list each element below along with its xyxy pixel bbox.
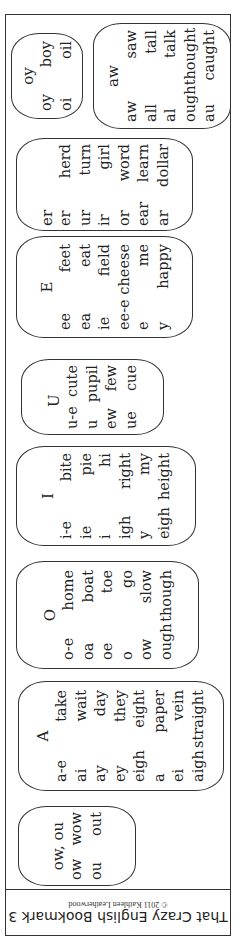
list-item: oaboat xyxy=(78,570,98,660)
list-item: ighright xyxy=(115,453,135,539)
list-item: ouout xyxy=(86,812,106,880)
list-item: eefeet xyxy=(55,244,75,330)
list-item: ogo xyxy=(117,570,137,660)
card-header: aw xyxy=(104,30,122,122)
list-item: a-etake xyxy=(52,690,72,782)
list-item: ihi xyxy=(96,453,116,539)
list-item: yhappy xyxy=(153,244,173,330)
list-item: eme xyxy=(133,244,153,330)
card-header: oy xyxy=(19,41,37,111)
card-header: E xyxy=(37,244,55,330)
list-item: urturn xyxy=(75,144,95,226)
list-item: ewfew xyxy=(102,365,122,429)
list-item: eighheight xyxy=(154,453,174,539)
list-item: apaper xyxy=(150,690,170,782)
list-item: aucaught xyxy=(200,30,220,122)
bookmark-footer: That Crazy English Bookmark 3 © 2011 Kat… xyxy=(6,889,230,935)
card-header: er xyxy=(37,144,55,226)
list-item: earlearn xyxy=(133,144,153,226)
card-A: A a-etake aiwait ayday eythey eigheight … xyxy=(18,681,224,791)
card-header: U xyxy=(45,365,63,429)
card-E: E eefeet eaeat iefield ee-echeese eme yh… xyxy=(16,236,193,338)
card-er: er erherd urturn irgirl orword earlearn … xyxy=(16,138,193,231)
list-item: aiwait xyxy=(72,690,92,782)
list-item: ymy xyxy=(135,453,155,539)
list-item: owwow xyxy=(67,812,87,880)
list-item: altalk xyxy=(161,30,181,122)
list-item: iefield xyxy=(94,244,114,330)
list-item: awsaw xyxy=(122,30,142,122)
card-O: O o-ehome oaboat oetoe ogo owslow oughth… xyxy=(16,561,199,669)
list-item: ardollar xyxy=(153,144,173,226)
list-item: oughthough xyxy=(156,570,176,660)
list-item: uecue xyxy=(121,365,141,429)
card-ow-ou: ow, ou owwow ouout xyxy=(18,806,136,886)
list-item: iepie xyxy=(76,453,96,539)
list-item: eythey xyxy=(111,690,131,782)
list-item: oioil xyxy=(56,41,76,111)
list-item: eaeat xyxy=(75,244,95,330)
list-item: aighstraight xyxy=(189,690,209,782)
list-item: upupil xyxy=(82,365,102,429)
card-header: A xyxy=(34,690,52,782)
copyright-text: © 2011 Kathleen Leatherwood xyxy=(69,900,168,910)
card-header: O xyxy=(40,570,58,660)
list-item: oyboy xyxy=(37,41,57,111)
list-item: o-ehome xyxy=(58,570,78,660)
list-item: i-ebite xyxy=(57,453,77,539)
card-U: U u-ecute upupil ewfew uecue xyxy=(21,359,164,435)
card-I: I i-ebite iepie ihi ighright ymy eighhei… xyxy=(16,446,196,546)
list-item: oetoe xyxy=(97,570,117,660)
list-item: ee-echeese xyxy=(114,244,134,330)
list-item: oughthought xyxy=(181,30,201,122)
bookmark-title: That Crazy English Bookmark 3 xyxy=(8,910,227,926)
list-item: ayday xyxy=(91,690,111,782)
list-item: u-ecute xyxy=(63,365,83,429)
card-oy: oy oyboy oioil xyxy=(11,33,83,119)
list-item: irgirl xyxy=(94,144,114,226)
list-item: erherd xyxy=(55,144,75,226)
list-item: owslow xyxy=(136,570,156,660)
card-aw: aw awsaw alltall altalk oughthought auca… xyxy=(93,23,231,129)
bookmark-sheet: oy oyboy oioil aw awsaw alltall altalk o… xyxy=(5,14,231,936)
card-header: ow, ou xyxy=(49,812,67,880)
list-item: alltall xyxy=(142,30,162,122)
card-header: I xyxy=(39,453,57,539)
list-item: orword xyxy=(114,144,134,226)
list-item: eivein xyxy=(169,690,189,782)
list-item: eigheight xyxy=(130,690,150,782)
